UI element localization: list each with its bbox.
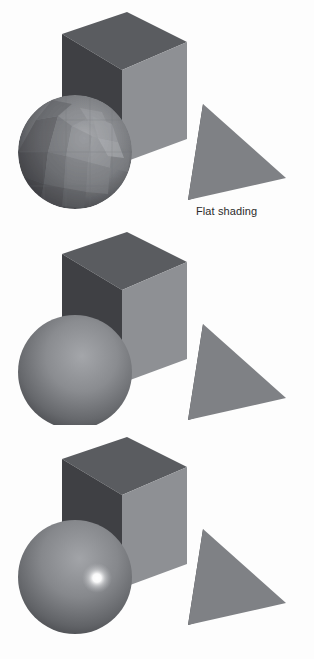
sphere-phong bbox=[18, 520, 132, 634]
specular-highlight bbox=[82, 563, 112, 593]
panel-phong-shading: Phong shading bbox=[0, 425, 314, 645]
sphere-flat bbox=[18, 95, 132, 209]
scene-gouraud bbox=[0, 220, 314, 440]
panel-flat-shading: Flat shading bbox=[0, 0, 314, 220]
shading-comparison-figure: Flat shading bbox=[0, 0, 314, 659]
panel-gouraud-shading: Gouraud shading bbox=[0, 220, 314, 440]
scene-flat bbox=[0, 0, 314, 220]
caption-flat-shading: Flat shading bbox=[196, 205, 257, 217]
sphere-gouraud bbox=[18, 315, 132, 429]
scene-phong bbox=[0, 425, 314, 645]
